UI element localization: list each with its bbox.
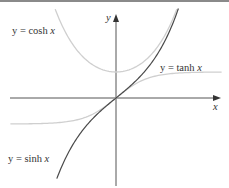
tanh-label-var: x (197, 62, 202, 73)
tanh-label-text: y = tanh (160, 62, 197, 73)
sinh-label-text: y = sinh (8, 153, 45, 164)
sinh-label: y = sinh x (8, 153, 49, 164)
y-axis-label: y (106, 12, 111, 23)
cosh-label-var: x (50, 25, 55, 36)
y-axis-arrow-icon (113, 14, 119, 22)
sinh-curve (57, 8, 179, 178)
cosh-label: y = cosh x (12, 25, 55, 36)
sinh-label-var: x (45, 153, 50, 164)
x-axis-label: x (213, 101, 218, 112)
tanh-label: y = tanh x (160, 62, 202, 73)
x-axis-label-text: x (213, 101, 218, 112)
y-axis-label-text: y (106, 12, 111, 23)
cosh-label-text: y = cosh (12, 25, 50, 36)
